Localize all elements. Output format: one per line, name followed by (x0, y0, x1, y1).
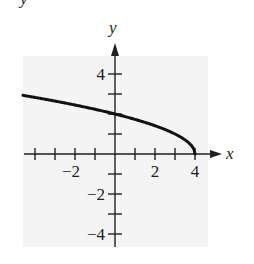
x-axis-arrow-icon (210, 150, 222, 158)
graph: x y y −224 4−2−4 (0, 0, 254, 264)
y-axis-label: y (107, 18, 117, 37)
y-axis-arrow-icon (111, 43, 119, 56)
x-tick-label: −2 (62, 162, 80, 181)
y-tick-label: −4 (87, 225, 106, 244)
x-tick-label: 2 (151, 162, 160, 181)
x-axis-label: x (225, 144, 234, 163)
y-tick-label: −2 (87, 185, 105, 204)
y-tick-label: 4 (97, 65, 106, 84)
cut-off-header-text: y (18, 0, 28, 8)
x-tick-label: 4 (191, 162, 200, 181)
